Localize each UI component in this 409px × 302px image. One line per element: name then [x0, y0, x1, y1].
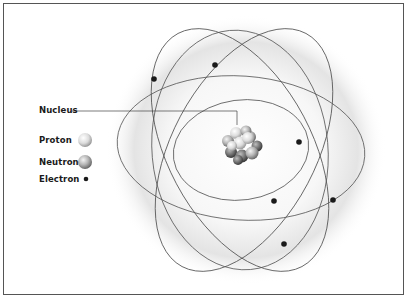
electron-dot [296, 139, 302, 145]
electron-dot [212, 62, 218, 68]
electron-label: Electron [39, 174, 79, 184]
electron-dot [281, 241, 287, 247]
electron-dot [330, 197, 336, 203]
electron-dot [151, 76, 157, 82]
atom-diagram [0, 0, 409, 302]
proton-label: Proton [39, 135, 72, 145]
nucleus-label: Nucleus [39, 105, 78, 115]
neutron-legend-icon [78, 155, 92, 169]
electron-cloud-glow [106, 15, 386, 285]
proton-legend-icon [78, 133, 92, 147]
electron-dot [271, 198, 277, 204]
electron-legend-icon [84, 177, 89, 182]
neutron-label: Neutron [39, 157, 79, 167]
